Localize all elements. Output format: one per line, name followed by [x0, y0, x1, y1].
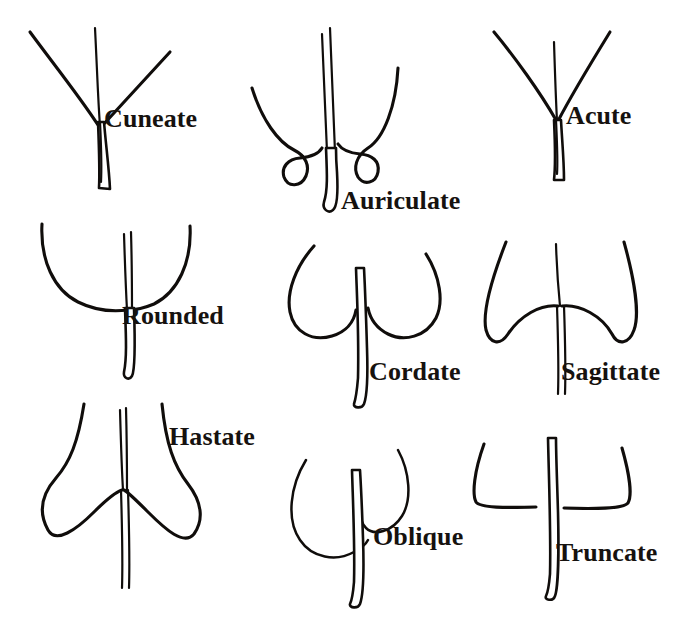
auriculate-left-lobe: [252, 88, 322, 185]
cuneate-left-margin: [30, 32, 98, 125]
oblique-petiole: [350, 470, 363, 607]
label-sagittate: Sagittate: [561, 359, 660, 385]
sagittate-left-lobe: [485, 242, 558, 342]
label-hastate: Hastate: [169, 424, 255, 450]
auriculate-right-lobe: [338, 68, 398, 182]
truncate-drawing: [466, 432, 656, 612]
auriculate-midrib-right: [330, 28, 335, 152]
auriculate-midrib-left: [322, 34, 327, 152]
truncate-left-margin: [474, 444, 536, 507]
label-cordate: Cordate: [369, 359, 461, 385]
label-rounded: Rounded: [122, 303, 224, 329]
rounded-midrib-left: [124, 234, 127, 310]
cordate-left-lobe: [289, 246, 356, 338]
label-oblique: Oblique: [373, 524, 463, 550]
panel-truncate: [466, 432, 656, 612]
truncate-right-margin: [564, 448, 630, 508]
cordate-drawing: [276, 238, 466, 418]
sagittate-right-lobe: [562, 242, 636, 342]
label-acute: Acute: [566, 103, 631, 129]
panel-sagittate: [474, 236, 664, 416]
hastate-midrib-right: [126, 408, 127, 490]
acute-left-margin: [494, 32, 556, 120]
sagittate-petiole-left: [557, 306, 558, 394]
label-cuneate: Cuneate: [104, 106, 197, 132]
sagittate-midrib: [556, 244, 560, 306]
rounded-midrib-right: [131, 232, 132, 310]
cuneate-petiole-line: [100, 122, 101, 182]
rounded-right-margin: [128, 226, 190, 310]
leaf-base-shapes-figure: Cuneate Auriculate Acute: [0, 0, 692, 638]
auriculate-petiole: [324, 148, 338, 211]
cordate-right-lobe: [368, 254, 440, 338]
hastate-petiole-left: [121, 490, 122, 588]
oblique-right-lobe: [360, 450, 408, 532]
label-auriculate: Auriculate: [341, 188, 460, 214]
panel-cordate: [276, 238, 466, 418]
label-truncate: Truncate: [556, 540, 657, 566]
truncate-petiole: [546, 438, 559, 600]
acute-petiole-line: [556, 120, 557, 174]
rounded-left-margin: [42, 224, 128, 311]
sagittate-drawing: [474, 236, 664, 416]
cuneate-midrib: [95, 28, 100, 126]
cordate-petiole: [354, 268, 367, 407]
hastate-left-lobe: [42, 404, 122, 536]
hastate-petiole-right: [128, 490, 129, 588]
acute-midrib: [554, 42, 557, 121]
hastate-midrib-left: [120, 410, 123, 490]
